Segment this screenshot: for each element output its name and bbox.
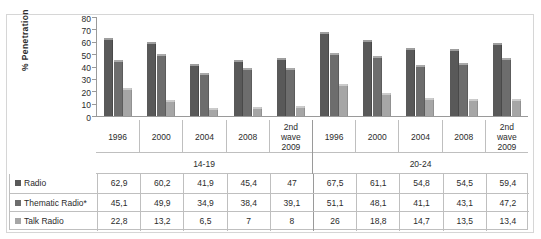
table-cell: 43,1: [443, 194, 486, 213]
table-cell: 48,1: [356, 194, 399, 213]
legend-label: Radio: [24, 178, 46, 188]
bar: [286, 68, 295, 116]
table-cell: 6,5: [183, 212, 226, 231]
bar-group: [313, 17, 356, 116]
bar: [114, 60, 123, 116]
bar: [450, 49, 459, 116]
bar: [209, 108, 218, 116]
y-axis-title: % Penetration: [20, 0, 34, 88]
bar: [373, 56, 382, 116]
category-label-text: 2008: [454, 132, 473, 142]
table-cell: 39,1: [270, 194, 313, 213]
table-cell: 61,1: [356, 174, 399, 193]
table-cell: 67,5: [313, 174, 356, 193]
bar-group: [140, 17, 183, 116]
legend-item-2: Thematic Radio*: [10, 194, 97, 213]
y-tick-label: 40: [69, 64, 91, 73]
table-cell: 38,4: [227, 194, 270, 213]
table-cell: 49,9: [140, 194, 183, 213]
y-tick-label: 80: [69, 15, 91, 24]
bar-group: [183, 17, 226, 116]
x-axis-line: [96, 116, 528, 117]
group-label: 14-19: [96, 153, 312, 174]
y-tick-label: 0: [69, 114, 91, 123]
bar: [459, 63, 468, 116]
table-cell: 62,9: [97, 174, 140, 193]
legend-item-1: Radio: [10, 174, 97, 193]
bar: [339, 84, 348, 116]
bar: [382, 93, 391, 116]
table-cell: 59,4: [486, 174, 529, 193]
category-label-text: 1996: [325, 132, 344, 142]
bar-group: [97, 17, 140, 116]
table-cell: 47,2: [486, 194, 529, 213]
group-label-band: 14-1920-24: [96, 153, 528, 174]
category-label: 2008: [442, 120, 485, 153]
table-cell: 41,1: [399, 194, 442, 213]
chart-figure: % Penetration 80706050403020100 19962000…: [6, 14, 534, 233]
legend-label: Thematic Radio*: [24, 198, 87, 208]
bar: [104, 38, 113, 116]
group-label: 20-24: [312, 153, 528, 174]
bar: [157, 54, 166, 116]
bar: [425, 98, 434, 116]
category-label-text: 2004: [195, 132, 214, 142]
y-tick-label: 20: [69, 89, 91, 98]
bar: [512, 99, 521, 116]
table-cell: 13,4: [486, 212, 529, 231]
bar: [320, 32, 329, 116]
legend-swatch-icon: [15, 218, 21, 224]
bar: [502, 58, 511, 116]
bar-group: [227, 17, 270, 116]
bar: [190, 64, 199, 116]
category-label: 2ndwave2009: [485, 120, 528, 153]
table-cell: 34,9: [183, 194, 226, 213]
bar: [277, 58, 286, 116]
category-label-text: 1996: [108, 132, 127, 142]
table-row: Thematic Radio*45,149,934,938,439,151,14…: [10, 193, 529, 212]
table-row: Radio62,960,241,945,44767,561,154,854,55…: [10, 174, 529, 193]
category-label-text: 2ndwave2009: [281, 122, 301, 152]
table-cell: 51,1: [313, 194, 356, 213]
table-cell: 47: [270, 174, 313, 193]
bar: [416, 65, 425, 116]
y-tick-mark: [92, 17, 96, 18]
y-tick-label: 70: [69, 27, 91, 36]
table-cell: 13,5: [443, 212, 486, 231]
y-tick-mark: [92, 116, 96, 117]
bar: [200, 73, 209, 116]
legend-item-3: Talk Radio: [10, 212, 97, 231]
bar-group: [486, 17, 529, 116]
bar-group: [270, 17, 313, 116]
y-tick-mark: [92, 79, 96, 80]
bar: [253, 107, 262, 116]
table-cell: 54,8: [399, 174, 442, 193]
category-label-text: 2000: [152, 132, 171, 142]
legend-label: Talk Radio: [24, 216, 64, 226]
category-label: 1996: [96, 120, 139, 153]
bar: [406, 48, 415, 116]
y-tick-label: 30: [69, 76, 91, 85]
category-label: 2000: [355, 120, 398, 153]
bar: [166, 100, 175, 116]
bar: [243, 68, 252, 116]
y-tick-mark: [92, 29, 96, 30]
plot-area: % Penetration 80706050403020100: [7, 15, 535, 120]
category-label: 1996: [312, 120, 355, 153]
bar: [469, 99, 478, 116]
bar: [296, 106, 305, 116]
table-cell: 7: [227, 212, 270, 231]
bar: [123, 88, 132, 116]
bar-group: [443, 17, 486, 116]
bar-group: [399, 17, 442, 116]
y-tick-mark: [92, 104, 96, 105]
category-label-text: 2000: [368, 132, 387, 142]
y-tick-mark: [92, 42, 96, 43]
table-cell: 8: [270, 212, 313, 231]
data-table: Radio62,960,241,945,44767,561,154,854,55…: [9, 174, 528, 230]
bar: [363, 40, 372, 116]
category-label: 2000: [139, 120, 182, 153]
y-axis-ticks: 80706050403020100: [69, 17, 91, 117]
y-tick-label: 50: [69, 52, 91, 61]
table-cell: 26: [313, 212, 356, 231]
